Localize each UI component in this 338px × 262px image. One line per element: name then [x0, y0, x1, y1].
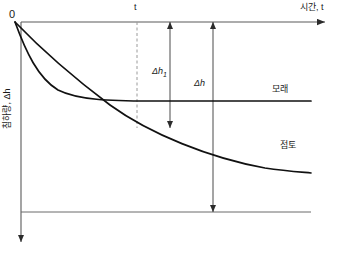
chart-canvas — [0, 0, 338, 262]
settlement-time-chart: 0 시간, t 침하량, Δh t Δh1 Δh 모래 점토 — [0, 0, 338, 262]
delta-h1-label: Δh1 — [152, 67, 167, 78]
x-axis-label: 시간, t — [300, 3, 324, 12]
y-axis-label: 침하량, Δh — [3, 78, 12, 140]
delta-h1-label-text: Δh — [152, 66, 163, 76]
clay-curve-label: 점토 — [280, 141, 296, 150]
sand-settlement-curve — [15, 22, 311, 101]
delta-h1-label-subscript: 1 — [163, 71, 167, 78]
time-t-tick-label: t — [134, 3, 137, 12]
origin-label: 0 — [9, 9, 15, 20]
y-axis-label-prefix: 침하량, — [2, 100, 12, 129]
clay-settlement-curve — [15, 22, 311, 173]
y-axis-label-symbol: Δh — [2, 88, 12, 99]
sand-curve-label: 모래 — [272, 85, 288, 94]
delta-h-label: Δh — [194, 79, 205, 88]
